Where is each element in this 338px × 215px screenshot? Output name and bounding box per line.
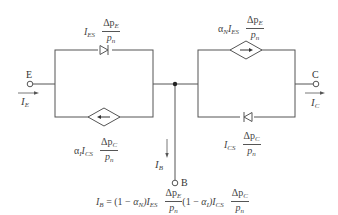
source-right-label: αNIES ΔpE pn xyxy=(218,15,264,42)
arrow-ic-icon xyxy=(305,91,325,94)
fraction: ΔpE pn xyxy=(246,15,264,42)
current-source-left-icon xyxy=(88,108,120,126)
diode-emitter-label: IES ΔpE pn xyxy=(84,18,120,45)
current-source-right-icon xyxy=(230,41,262,59)
fraction: ΔpE pn xyxy=(102,18,120,45)
arrow-ib-icon xyxy=(165,139,168,158)
source-left-label: αIICS ΔpC pn xyxy=(74,137,118,164)
fraction: ΔpE pn xyxy=(165,188,183,215)
diode-emitter-icon xyxy=(98,45,112,55)
terminal-b-icon xyxy=(172,180,178,186)
current-ib-label: IB xyxy=(155,159,163,172)
terminal-b-label: B xyxy=(181,178,188,188)
base-current-equation: IB = (1 − αN)IES ΔpE pn (1 − αI)ICS ΔpC … xyxy=(96,188,249,215)
fraction: ΔpC pn xyxy=(231,188,249,215)
fraction: ΔpC pn xyxy=(243,131,261,158)
left-branch-loop xyxy=(55,50,153,117)
terminal-e-label: E xyxy=(26,70,32,80)
fraction: ΔpC pn xyxy=(100,137,118,164)
right-branch-loop xyxy=(198,50,295,117)
circuit-wires xyxy=(0,0,338,215)
current-ic-label: IC xyxy=(311,97,319,110)
diode-collector-icon xyxy=(240,112,254,122)
junction-dot-icon xyxy=(173,82,177,86)
terminal-c-icon xyxy=(313,81,319,87)
diode-collector-label: ICS ΔpC pn xyxy=(224,131,261,158)
terminal-c-label: C xyxy=(312,70,319,80)
current-ie-label: IE xyxy=(21,96,29,109)
terminal-e-icon xyxy=(27,81,33,87)
